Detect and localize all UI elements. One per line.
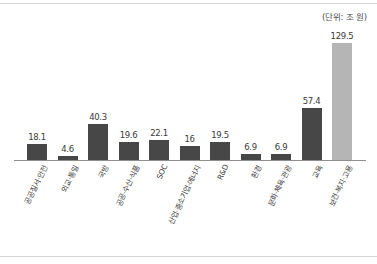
bar-value-label: 19.6 bbox=[120, 130, 138, 140]
x-tick-label-text: R&D bbox=[215, 163, 230, 181]
bar-value-label: 4.6 bbox=[61, 144, 74, 154]
bar-value-label: 16 bbox=[184, 134, 194, 144]
bar-value-label: 129.5 bbox=[331, 31, 354, 41]
x-tick-label-text: 산업·중소기업·에너지 bbox=[164, 163, 201, 226]
bar-chart-figure: (단위: 조 원) 18.14.640.319.622.11619.56.96.… bbox=[0, 0, 377, 264]
x-axis-line bbox=[14, 160, 366, 161]
bar-value-label: 18.1 bbox=[28, 132, 46, 142]
x-tick-label-text: 국방 bbox=[95, 163, 111, 180]
x-tick-label-text: 환경 bbox=[247, 163, 263, 180]
x-tick-label-text: 공공질서·안전 bbox=[21, 163, 49, 206]
bar-value-label: 6.9 bbox=[275, 142, 288, 152]
plot-area: 18.14.640.319.622.11619.56.96.957.4129.5… bbox=[0, 0, 377, 264]
x-tick-label-text: 공공·수산·식품 bbox=[112, 163, 141, 208]
x-tick-label-text: 문화·체육·관광 bbox=[264, 163, 293, 208]
bar-value-label: 6.9 bbox=[244, 142, 257, 152]
bar[interactable] bbox=[332, 43, 352, 160]
bar-group: 129.5 bbox=[332, 43, 352, 160]
bar-value-label: 40.3 bbox=[89, 112, 107, 122]
x-tick-label-text: 보건·복지·고용 bbox=[325, 163, 354, 208]
bar-value-label: 57.4 bbox=[303, 96, 321, 106]
x-tick-label-text: SOC bbox=[155, 163, 170, 180]
x-tick-label-text: 교육 bbox=[308, 163, 324, 180]
x-tick-label-text: 외교·통일 bbox=[57, 163, 79, 194]
